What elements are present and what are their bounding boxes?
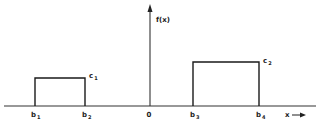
x-direction-arrow-icon	[300, 113, 306, 118]
y-axis-arrow-icon	[148, 4, 153, 12]
level-label-c1: c1	[89, 72, 98, 81]
tick-label-b2: b2	[82, 111, 92, 120]
x-axis-label: x	[285, 111, 290, 119]
step-rect-2	[193, 62, 259, 106]
tick-label-b4: b4	[256, 111, 266, 120]
origin-label: 0	[147, 111, 152, 119]
level-label-c2: c2	[263, 57, 272, 66]
y-axis-label: f(x)	[156, 16, 170, 24]
step-rect-1	[35, 78, 85, 106]
tick-label-b1: b1	[31, 111, 41, 120]
tick-label-b3: b3	[190, 111, 200, 120]
step-function-diagram: f(x) c1 c2 b1 b2 0 b3 b4 x	[0, 0, 318, 123]
